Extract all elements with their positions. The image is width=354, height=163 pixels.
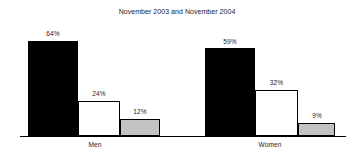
bar-value-label-men-s1: 64% <box>28 30 78 37</box>
category-label-men: Men <box>70 141 120 148</box>
bar-value-label-women-s3: 9% <box>296 112 338 119</box>
bar-women-s3 <box>298 123 335 136</box>
bar-men-s2 <box>78 101 120 136</box>
bar-women-s1 <box>205 48 255 136</box>
bar-value-label-women-s2: 32% <box>252 79 301 86</box>
bar-men-s1 <box>28 41 78 136</box>
bar-value-label-men-s2: 24% <box>75 90 123 97</box>
plot-area: 64%24%12%59%32%9% <box>0 0 354 163</box>
bar-men-s3 <box>120 119 160 136</box>
bar-chart: November 2003 and November 2004 64%24%12… <box>0 0 354 163</box>
bar-women-s2 <box>255 90 298 136</box>
bar-value-label-men-s3: 12% <box>117 108 163 115</box>
bar-value-label-women-s1: 59% <box>205 38 255 45</box>
category-label-women: Women <box>245 141 295 148</box>
x-axis-baseline <box>20 136 346 137</box>
